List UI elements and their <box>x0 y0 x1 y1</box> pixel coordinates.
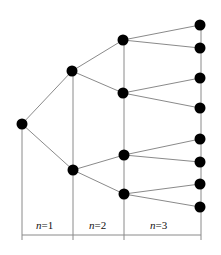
tree-edge <box>22 124 73 170</box>
level-label-1: n=1 <box>36 219 53 231</box>
tree-edge <box>123 93 200 108</box>
tree-node-n1b <box>68 165 79 176</box>
tree-edges <box>22 25 200 207</box>
level-label-2: n=2 <box>89 219 106 231</box>
tree-node-l8 <box>195 202 206 213</box>
tree-edge <box>123 78 200 93</box>
tree-edge <box>73 170 124 194</box>
tree-node-n2c <box>119 150 130 161</box>
level-label-3: n=3 <box>150 219 168 231</box>
tree-node-l5 <box>195 134 206 145</box>
tree-node-root <box>17 119 28 130</box>
tree-edge <box>124 155 200 162</box>
tree-diagram: n=1n=2n=3 <box>0 0 221 255</box>
tree-edge <box>123 40 200 48</box>
tree-node-l7 <box>195 179 206 190</box>
tree-edge <box>124 194 200 207</box>
tree-edge <box>22 71 72 124</box>
tree-node-n2d <box>119 189 130 200</box>
tree-node-l1 <box>195 20 206 31</box>
tree-edge <box>72 71 123 93</box>
tree-edge <box>73 155 124 170</box>
tree-node-l2 <box>195 43 206 54</box>
level-labels: n=1n=2n=3 <box>36 219 168 231</box>
tree-node-n2b <box>118 88 129 99</box>
tree-edge <box>124 184 200 194</box>
tree-edge <box>72 40 123 71</box>
tree-node-l6 <box>195 157 206 168</box>
tree-edge <box>124 139 200 155</box>
tree-edge <box>123 25 200 40</box>
tree-node-n1a <box>67 66 78 77</box>
tree-node-l4 <box>195 103 206 114</box>
level-divider-lines <box>22 25 201 240</box>
tree-node-n2a <box>118 35 129 46</box>
tree-node-l3 <box>195 73 206 84</box>
tree-nodes <box>17 20 206 213</box>
